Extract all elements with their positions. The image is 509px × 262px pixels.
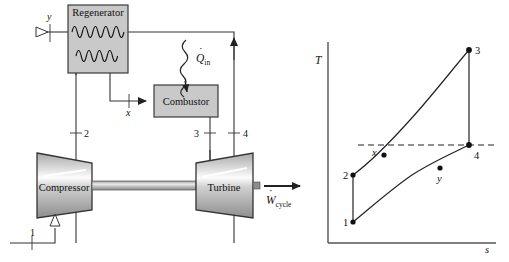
ts-point-2 [350,172,355,177]
ts-label-y: y [436,173,442,184]
state-label-4: 4 [243,128,248,139]
process-4-to-1 [353,145,469,222]
svg-text:Wcycle: Wcycle [266,194,292,209]
ts-label-1: 1 [343,217,348,228]
work-output-label: Wcycle · [266,184,292,209]
thermo-figure: Regenerator Combustor Qin · [0,0,509,262]
ts-point-4 [466,142,472,148]
regenerator-label: Regenerator [72,7,124,18]
ts-state-labels: 1 2 x 3 4 y [343,45,480,228]
state-label-1: 1 [30,227,35,238]
ts-state-points [350,47,472,225]
wdot-subscript: cycle [276,200,292,209]
ts-point-x [381,152,386,157]
pipe-regenerator-to-combustor [110,73,146,101]
compressor-label: Compressor [39,182,90,193]
state-label-x: x [125,107,131,118]
state-label-2: 2 [84,128,89,139]
ts-diagram-group: T s 1 [315,42,496,255]
regenerator-box[interactable]: Regenerator [68,5,128,73]
turbine-unit[interactable]: Turbine [196,153,260,218]
heat-input-label: Qin · [196,42,210,67]
ts-point-3 [466,47,472,53]
svg-text:·: · [269,184,273,196]
ts-point-1 [350,219,355,224]
state-label-y: y [46,11,52,22]
ts-xlabel: s [485,244,489,255]
state-label-3: 3 [194,128,199,139]
ts-process-paths [353,50,469,222]
ts-ylabel: T [315,54,323,66]
figure-root: Regenerator Combustor Qin · [0,0,509,262]
svg-text:·: · [199,42,203,54]
schematic-group: Regenerator Combustor Qin · [10,5,300,250]
pipe-regenerator-exhaust-y [36,24,68,42]
ts-label-3: 3 [475,45,480,56]
pipe-1-to-compressor [10,214,60,250]
ts-label-2: 2 [343,170,348,181]
qdot-subscript: in [204,58,210,67]
compressor-unit[interactable]: Compressor [37,153,92,218]
process-2-to-3 [353,50,469,175]
ts-label-4: 4 [474,150,480,161]
combustor-label: Combustor [163,96,210,107]
ts-label-x: x [371,147,377,158]
svg-text:Qin: Qin [196,52,210,67]
ts-point-y [437,165,442,170]
shaft [92,181,196,190]
turbine-label: Turbine [208,182,241,193]
